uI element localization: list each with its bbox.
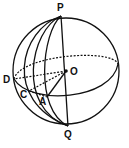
sphere-diagram: P Q O D C A: [0, 0, 129, 148]
centre-point: [64, 69, 68, 73]
label-q: Q: [64, 129, 72, 140]
label-o: O: [70, 66, 78, 77]
radius-oa: [47, 71, 66, 97]
equator-back: [14, 55, 118, 79]
label-p: P: [57, 2, 64, 13]
sphere-figure: P Q O D C A: [0, 0, 129, 148]
label-a: A: [39, 96, 46, 107]
label-c: C: [20, 89, 27, 100]
label-d: D: [3, 74, 10, 85]
